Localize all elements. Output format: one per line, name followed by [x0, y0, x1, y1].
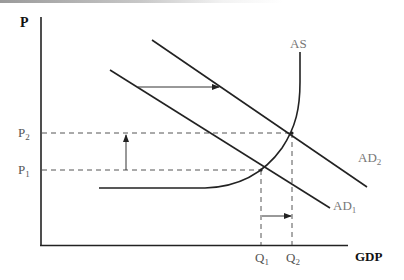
ad2-curve: [152, 40, 367, 187]
ad1-label-base: AD: [333, 198, 352, 213]
q2-label-sub: 2: [295, 257, 300, 267]
equilibrium-point-1: [259, 168, 262, 171]
ad1-label-sub: 1: [352, 205, 357, 215]
q1-label-sub: 1: [264, 257, 269, 267]
p1-label-sub: 1: [25, 169, 30, 179]
q2-label: Q2: [286, 251, 300, 267]
as-label: AS: [290, 37, 307, 50]
ad2-label-base: AD: [358, 150, 377, 165]
p1-label: P1: [18, 163, 30, 179]
ad2-label-sub: 2: [377, 157, 382, 167]
y-axis-label: P: [20, 16, 29, 30]
ad2-label: AD2: [358, 151, 381, 167]
x-axis-label: GDP: [355, 250, 382, 263]
guide-lines: [42, 133, 292, 245]
q1-label-base: Q: [255, 250, 264, 265]
p2-label-sub: 2: [25, 132, 30, 142]
ad-as-diagram: [0, 0, 404, 280]
p2-label: P2: [18, 126, 30, 142]
axes: [40, 17, 348, 246]
q2-label-base: Q: [286, 250, 295, 265]
ad1-label: AD1: [333, 199, 356, 215]
q1-label: Q1: [255, 251, 269, 267]
equilibrium-point-2: [290, 131, 293, 134]
